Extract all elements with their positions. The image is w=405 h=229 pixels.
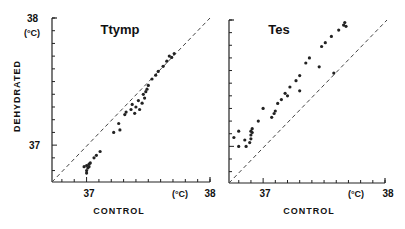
- data-point: [237, 130, 240, 133]
- left-y-unit: (°C): [24, 28, 40, 38]
- right-panel-title: Tes: [268, 22, 289, 37]
- data-point: [142, 93, 145, 96]
- data-point: [170, 56, 173, 59]
- data-point: [112, 131, 115, 134]
- left-x-unit: (°C): [172, 189, 188, 199]
- data-point: [87, 165, 90, 168]
- left-x-tick-37: 37: [83, 188, 95, 199]
- data-point: [324, 41, 327, 44]
- data-point: [147, 84, 150, 87]
- data-point: [154, 74, 157, 77]
- data-point: [270, 116, 273, 119]
- data-point: [337, 29, 340, 32]
- data-point: [304, 61, 307, 64]
- data-point: [343, 21, 346, 24]
- data-point: [131, 103, 134, 106]
- right-x-tick-38: 38: [382, 188, 394, 199]
- data-point: [330, 35, 333, 38]
- data-point: [280, 98, 283, 101]
- data-point: [165, 60, 168, 63]
- data-point: [308, 56, 311, 59]
- data-point: [262, 107, 265, 110]
- right-x-tick-37: 37: [259, 188, 271, 199]
- left-panel: 38 (°C) 37 37 (°C) 38 Ttymp CONTROL DEHY…: [12, 13, 216, 216]
- right-x-unit: (°C): [348, 189, 364, 199]
- data-point: [173, 52, 176, 55]
- left-y-axis-label: DEHYDRATED: [12, 60, 22, 132]
- left-x-axis-label: CONTROL: [93, 206, 145, 216]
- right-x-axis-label: CONTROL: [283, 206, 335, 216]
- data-point: [129, 108, 132, 111]
- data-point: [117, 122, 120, 125]
- data-point: [298, 89, 301, 92]
- data-point: [150, 77, 153, 80]
- right-identity-line: [229, 20, 387, 183]
- data-point: [95, 154, 98, 157]
- data-point: [232, 136, 235, 139]
- data-point: [138, 108, 141, 111]
- data-point: [99, 150, 102, 153]
- data-point: [137, 99, 140, 102]
- left-data-points: [83, 52, 176, 175]
- data-point: [118, 128, 121, 131]
- data-point: [332, 72, 335, 75]
- data-point: [141, 102, 144, 105]
- data-point: [145, 88, 148, 91]
- left-x-tick-38: 38: [204, 188, 216, 199]
- data-point: [294, 79, 297, 82]
- data-point: [243, 138, 246, 141]
- data-point: [344, 25, 347, 28]
- data-point: [133, 112, 136, 115]
- left-x-ticks: [62, 177, 210, 182]
- data-point: [125, 111, 128, 114]
- data-point: [134, 105, 137, 108]
- data-point: [237, 145, 240, 148]
- chart-canvas: 38 (°C) 37 37 (°C) 38 Ttymp CONTROL DEHY…: [0, 0, 405, 229]
- left-y-ticks: [52, 18, 57, 171]
- data-point: [257, 120, 260, 123]
- data-point: [245, 145, 248, 148]
- data-point: [288, 85, 291, 88]
- data-point: [249, 137, 252, 140]
- data-point: [248, 141, 251, 144]
- left-identity-line: [52, 18, 210, 182]
- right-x-ticks: [239, 178, 385, 183]
- data-point: [284, 92, 287, 95]
- data-point: [143, 97, 146, 100]
- right-panel: 37 (°C) 38 Tes CONTROL: [229, 20, 394, 216]
- data-point: [276, 102, 279, 105]
- data-point: [318, 65, 321, 68]
- data-point: [85, 172, 88, 175]
- left-y-tick-37: 37: [29, 140, 41, 151]
- left-y-tick-38: 38: [27, 13, 39, 24]
- data-point: [286, 94, 289, 97]
- left-panel-title: Ttymp: [101, 22, 140, 37]
- data-point: [89, 161, 92, 164]
- data-point: [274, 109, 277, 112]
- data-point: [251, 131, 254, 134]
- data-point: [251, 127, 254, 130]
- data-point: [92, 156, 95, 159]
- right-data-points: [232, 21, 347, 148]
- data-point: [298, 74, 301, 77]
- right-y-ticks: [229, 20, 234, 172]
- data-point: [157, 70, 160, 73]
- data-point: [162, 65, 165, 68]
- data-point: [320, 45, 323, 48]
